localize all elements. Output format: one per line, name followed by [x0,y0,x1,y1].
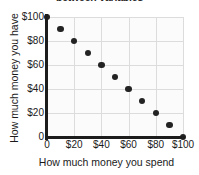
x-tick-label: $60 [120,139,137,150]
gridline-vertical [74,17,75,137]
gridline-vertical [183,17,184,137]
gridline-horizontal [47,17,183,18]
y-axis-line [45,14,48,140]
x-tick-label: 0 [44,139,50,150]
y-tick-label: $40 [0,83,44,94]
gridline-horizontal [47,113,183,114]
gridline-horizontal [47,41,183,42]
x-tick-label: $100 [172,139,194,150]
scatter-chart-figure: between variables How much money you hav… [0,0,199,175]
x-axis-ticks: 0$20$40$60$80$100 [0,139,199,155]
gridline-vertical [129,17,130,137]
x-tick-label: $40 [93,139,110,150]
gridline-horizontal [47,89,183,90]
y-tick-label: $100 [0,11,44,22]
data-point [125,86,132,93]
plot-area [47,17,183,137]
x-tick-label: $80 [147,139,164,150]
gridline-horizontal [47,65,183,66]
gridline-vertical [101,17,102,137]
y-tick-label: $20 [0,107,44,118]
y-tick-label: $80 [0,35,44,46]
x-tick-label: $20 [66,139,83,150]
data-point [166,122,173,129]
data-point [98,62,105,69]
y-tick-label: $60 [0,59,44,70]
data-point [57,26,64,33]
gridline-vertical [156,17,157,137]
